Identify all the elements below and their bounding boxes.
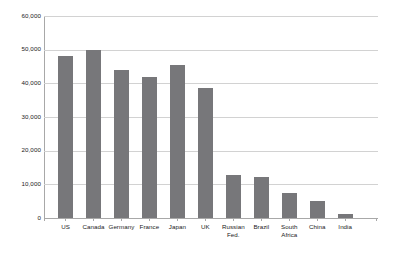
- y-tick-label: 10,000: [1, 181, 41, 187]
- bar: [142, 77, 157, 218]
- x-axis-label-line: Brazil: [253, 223, 269, 230]
- x-axis-label-line: Germany: [109, 223, 135, 230]
- y-tick-label: 20,000: [1, 147, 41, 153]
- x-tick: [44, 218, 45, 221]
- bar: [58, 56, 73, 218]
- x-axis-label-line: Fed.: [216, 231, 250, 239]
- x-axis-label-line: US: [61, 223, 70, 230]
- x-axis-ticks: [44, 218, 378, 222]
- bars-layer: [44, 16, 378, 218]
- bar: [310, 201, 325, 218]
- x-tick: [233, 218, 234, 221]
- x-axis-labels: USCanadaGermanyFranceJapanUKRussianFed.B…: [44, 223, 378, 253]
- x-axis-label-line: India: [338, 223, 352, 230]
- x-axis-label-line: Russian: [222, 223, 245, 230]
- x-tick: [205, 218, 206, 221]
- x-tick: [345, 218, 346, 221]
- x-tick: [177, 218, 178, 221]
- x-axis-label-line: Canada: [82, 223, 104, 230]
- x-tick: [121, 218, 122, 221]
- x-axis-label-line: Africa: [272, 231, 306, 239]
- x-tick: [317, 218, 318, 221]
- x-axis-label-line: Japan: [169, 223, 186, 230]
- x-tick: [376, 218, 377, 221]
- x-tick: [289, 218, 290, 221]
- bar: [254, 177, 269, 218]
- x-axis-label: India: [328, 223, 362, 231]
- bar: [86, 50, 101, 218]
- x-tick: [149, 218, 150, 221]
- bar: [282, 193, 297, 218]
- x-axis-label-line: UK: [201, 223, 210, 230]
- x-axis-label-line: France: [140, 223, 160, 230]
- y-tick-label: 0: [1, 215, 41, 221]
- x-axis-label-line: South: [281, 223, 297, 230]
- x-tick: [93, 218, 94, 221]
- y-tick-label: 60,000: [1, 13, 41, 19]
- y-axis-labels: 010,00020,00030,00040,00050,00060,000: [0, 0, 41, 256]
- plot-area: [44, 16, 378, 218]
- x-tick: [261, 218, 262, 221]
- x-axis-label-line: China: [309, 223, 325, 230]
- bar-chart: 010,00020,00030,00040,00050,00060,000 US…: [0, 0, 396, 256]
- bar: [114, 70, 129, 218]
- x-tick: [65, 218, 66, 221]
- y-tick-label: 50,000: [1, 46, 41, 52]
- bar: [198, 88, 213, 218]
- y-tick-label: 30,000: [1, 114, 41, 120]
- y-tick-label: 40,000: [1, 80, 41, 86]
- bar: [226, 175, 241, 218]
- bar: [170, 65, 185, 218]
